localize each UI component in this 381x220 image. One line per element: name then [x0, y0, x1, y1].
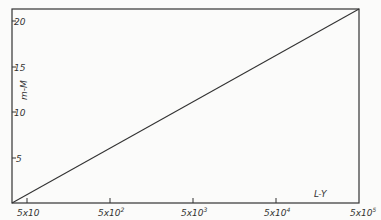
- x-axis-label: L-Y: [314, 189, 328, 199]
- x-tick-label: 5x103: [181, 206, 208, 218]
- y-tick-label: 10: [14, 108, 26, 118]
- data-line: [12, 9, 359, 203]
- y-axis-label: m-M: [19, 80, 29, 100]
- x-tick-label: 5x102: [98, 206, 125, 218]
- y-axis: 5 10 15 20 m-M: [12, 17, 29, 164]
- y-tick-label: 20: [14, 17, 26, 27]
- x-tick-label: 5x105: [350, 206, 377, 218]
- y-tick-label: 15: [14, 63, 26, 73]
- distance-modulus-chart: 5 10 15 20 m-M 5x10 5x102 5x103 5x104 5x…: [0, 0, 381, 220]
- y-tick-label: 5: [16, 154, 22, 164]
- x-tick-label: 5x104: [264, 206, 291, 218]
- x-tick-label: 5x10: [17, 208, 40, 218]
